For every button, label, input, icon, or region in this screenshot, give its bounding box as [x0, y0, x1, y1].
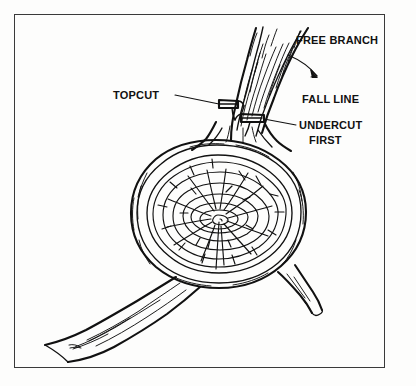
label-fall-line: FALL LINE	[302, 93, 359, 105]
label-topcut: TOPCUT	[113, 89, 159, 101]
right-branch-stub	[278, 265, 322, 315]
branch-grain	[241, 29, 300, 126]
log-cross-section	[131, 140, 306, 288]
label-free-branch: FREE BRANCH	[296, 34, 378, 46]
figure-root: FREE BRANCH FALL LINE TOPCUT UNDERCUT FI…	[0, 0, 416, 386]
topcut-leader	[175, 95, 219, 104]
pith-center	[213, 215, 228, 225]
tree-felling-diagram: FREE BRANCH FALL LINE TOPCUT UNDERCUT FI…	[0, 0, 416, 386]
branch-collar	[192, 122, 291, 151]
undercut-leader	[264, 119, 296, 125]
label-undercut: UNDERCUT	[299, 119, 362, 131]
label-undercut-first: FIRST	[309, 134, 342, 146]
fall-line-arrow	[288, 55, 318, 78]
lower-left-limb	[45, 277, 200, 362]
topcut-notch	[219, 100, 244, 108]
